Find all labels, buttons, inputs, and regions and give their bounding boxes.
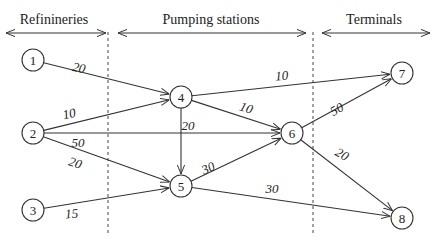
edge-2-5	[43, 137, 169, 182]
section-header: Refinineries	[6, 12, 106, 33]
edge-capacity-label: 20	[182, 118, 196, 133]
section-title: Pumping stations	[163, 12, 260, 27]
node-label: 4	[178, 90, 185, 105]
edge-1-4	[44, 63, 170, 94]
node-label: 6	[289, 126, 296, 141]
section-headers: RefinineriesPumping stationsTerminals	[6, 12, 430, 33]
edge-capacity-label: 20	[67, 154, 84, 172]
edge-capacity-label: 20	[333, 144, 352, 164]
node-label: 5	[178, 179, 185, 194]
edge-6-7	[302, 79, 392, 128]
node-6: 6	[281, 122, 303, 144]
edge-capacity-label: 10	[275, 68, 290, 84]
section-title: Refinineries	[20, 12, 88, 27]
edge-capacity-label: 20	[71, 59, 87, 76]
edge-capacity-label: 10	[61, 105, 77, 122]
node-label: 1	[30, 53, 37, 68]
node-5: 5	[170, 175, 192, 197]
node-8: 8	[391, 207, 413, 229]
node-4: 4	[170, 86, 192, 108]
edge-capacity-label: 50	[72, 135, 86, 150]
edges	[43, 63, 392, 217]
section-header: Pumping stations	[118, 12, 306, 33]
node-label: 7	[399, 66, 406, 81]
section-title: Terminals	[346, 12, 402, 27]
node-label: 2	[30, 126, 37, 141]
edge-capacity-label: 15	[64, 205, 79, 221]
node-3: 3	[22, 199, 44, 221]
edge-capacity-label: 30	[265, 181, 280, 196]
edge-capacity-label: 50	[327, 99, 346, 119]
node-1: 1	[22, 49, 44, 71]
pipeline-network-diagram: RefinineriesPumping stationsTerminals 20…	[0, 0, 436, 241]
node-7: 7	[391, 62, 413, 84]
edge-capacity-label: 10	[238, 99, 255, 117]
edge-4-6	[191, 100, 280, 129]
section-header: Terminals	[322, 12, 430, 33]
node-2: 2	[22, 122, 44, 144]
edge-3-5	[44, 188, 169, 208]
node-label: 3	[30, 203, 37, 218]
node-label: 8	[399, 211, 406, 226]
edge-5-8	[192, 188, 390, 217]
edge-4-7	[192, 74, 390, 96]
edge-capacity-label: 30	[198, 158, 217, 178]
